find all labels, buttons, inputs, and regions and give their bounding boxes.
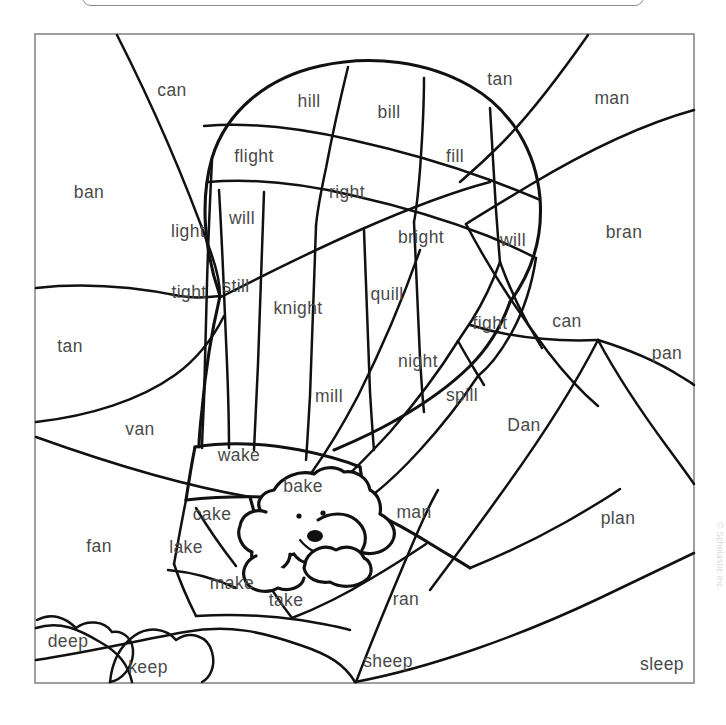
- word-region-bill[interactable]: bill: [378, 102, 401, 122]
- word-region-light[interactable]: light: [171, 221, 205, 241]
- word-region-sleep[interactable]: sleep: [640, 654, 684, 674]
- word-region-bright[interactable]: bright: [398, 227, 444, 247]
- word-region-bake[interactable]: bake: [283, 476, 323, 496]
- word-region-plan[interactable]: plan: [601, 508, 636, 528]
- word-region-pan[interactable]: pan: [652, 343, 682, 363]
- word-region-knight[interactable]: knight: [273, 298, 322, 318]
- word-region-keep[interactable]: keep: [128, 657, 168, 677]
- word-region-man[interactable]: man: [594, 88, 629, 108]
- word-region-tight[interactable]: tight: [171, 282, 206, 302]
- word-region-fill[interactable]: fill: [446, 146, 464, 166]
- word-region-spill[interactable]: spill: [446, 385, 478, 405]
- word-region-ran[interactable]: ran: [393, 589, 420, 609]
- puppy-nose: [307, 530, 323, 542]
- word-region-mill[interactable]: mill: [315, 386, 343, 406]
- word-region-wake[interactable]: wake: [217, 445, 260, 465]
- word-region-will[interactable]: will: [499, 230, 526, 250]
- word-region-tan[interactable]: tan: [487, 69, 513, 89]
- word-region-lake[interactable]: lake: [169, 537, 203, 557]
- word-region-quill[interactable]: quill: [370, 284, 403, 304]
- word-region-night[interactable]: night: [398, 351, 438, 371]
- word-region-make[interactable]: make: [210, 573, 254, 593]
- word-region-dan[interactable]: Dan: [507, 415, 540, 435]
- puppy-eye-right: [320, 510, 325, 515]
- word-region-tan[interactable]: tan: [57, 336, 83, 356]
- word-region-will[interactable]: will: [228, 208, 255, 228]
- word-region-flight[interactable]: flight: [234, 146, 273, 166]
- word-region-right[interactable]: right: [329, 182, 365, 202]
- word-region-take[interactable]: take: [269, 590, 304, 610]
- puppy-eye-left: [296, 513, 301, 518]
- word-region-van[interactable]: van: [125, 419, 154, 439]
- word-region-cake[interactable]: cake: [193, 504, 232, 524]
- word-region-still[interactable]: still: [222, 276, 249, 296]
- word-region-fan[interactable]: fan: [86, 536, 112, 556]
- word-region-can[interactable]: can: [157, 80, 186, 100]
- word-region-sheep[interactable]: sheep: [363, 651, 413, 671]
- word-region-can[interactable]: can: [552, 311, 581, 331]
- word-region-man[interactable]: man: [396, 502, 431, 522]
- word-region-bran[interactable]: bran: [606, 222, 643, 242]
- word-region-hill[interactable]: hill: [298, 91, 321, 111]
- artwork-frame: [35, 34, 694, 683]
- word-region-fight[interactable]: fight: [472, 313, 507, 333]
- worksheet-page: canhillbilltanmanflightfillbanrightwilll…: [0, 0, 726, 725]
- word-region-ban[interactable]: ban: [74, 182, 104, 202]
- copyright-watermark: © Scholastic Inc.: [711, 522, 725, 612]
- word-region-deep[interactable]: deep: [48, 631, 89, 651]
- coloring-page-artwork: canhillbilltanmanflightfillbanrightwilll…: [0, 0, 726, 725]
